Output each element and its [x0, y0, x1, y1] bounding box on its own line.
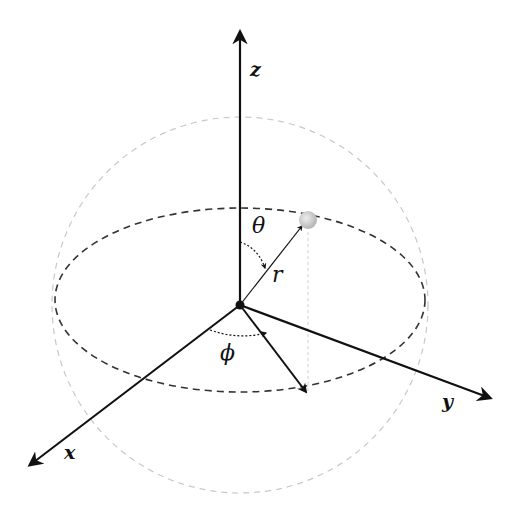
- radius-vector: [240, 226, 302, 305]
- point-marker: [299, 211, 317, 229]
- origin-dot: [236, 301, 245, 310]
- theta-label: θ: [252, 213, 265, 238]
- x-axis: [30, 305, 240, 465]
- phi-arc: [210, 330, 266, 336]
- y-axis-label: y: [442, 390, 453, 412]
- x-axis-label: x: [64, 441, 75, 463]
- theta-arc: [240, 242, 265, 268]
- radius-label: r: [272, 262, 283, 287]
- y-axis: [240, 305, 490, 398]
- z-axis-label: z: [250, 58, 261, 80]
- phi-label: ϕ: [220, 340, 235, 365]
- spherical-coordinates-diagram: z x y θ r ϕ: [0, 0, 514, 505]
